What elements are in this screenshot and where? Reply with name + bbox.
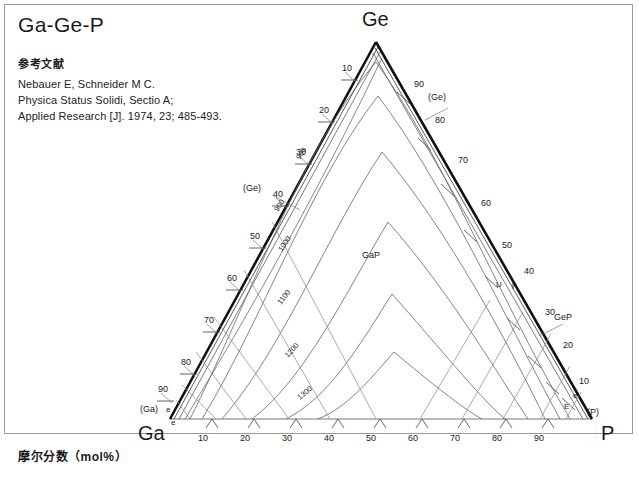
left-label-90: 90	[158, 384, 168, 394]
phase-label-gap: GaP	[362, 250, 380, 260]
left-label-80: 80	[181, 357, 191, 367]
bottom-label-60: 60	[408, 433, 418, 443]
bottom-ticks	[206, 419, 554, 428]
bottom-tick-labels: 10 20 30 40 50 60 70 80 90	[198, 433, 544, 443]
left-leader-80	[184, 366, 195, 376]
bottom-label-30: 30	[282, 433, 292, 443]
tie-line-9	[503, 334, 551, 419]
isotherm-label-1100: 1100	[275, 288, 292, 306]
right-tick-60	[464, 230, 477, 242]
gep-boundary-right-2	[373, 53, 583, 419]
isotherm-label-1200: 1200	[283, 341, 301, 359]
bottom-tick-40	[332, 419, 344, 428]
point-label-e3: e	[573, 391, 578, 400]
point-label-e2: e	[171, 418, 176, 427]
bottom-label-20: 20	[240, 433, 250, 443]
left-leader-70	[207, 324, 218, 334]
bottom-label-40: 40	[324, 433, 334, 443]
tie-line-2	[182, 385, 216, 419]
isotherm-1300	[318, 352, 482, 419]
left-label-70: 70	[204, 315, 214, 325]
right-label-20: 20	[563, 340, 573, 350]
phase-label-ga-paren: (Ga)	[140, 404, 158, 414]
left-label-10: 10	[342, 63, 352, 73]
axis-right	[376, 42, 592, 419]
phase-labels: (Ge) (Ge) GaP GeP (Ga) (P)	[140, 92, 599, 417]
ternary-diagram: 10 20 30 40 50 60 70 80 90	[0, 0, 639, 478]
bottom-tick-60	[416, 419, 428, 428]
isotherm-900	[190, 62, 570, 419]
right-label-10: 10	[579, 376, 589, 386]
bottom-tick-80	[500, 419, 512, 428]
gep-boundary-right-1	[375, 48, 588, 419]
right-tick-20	[546, 382, 559, 394]
left-leader-20	[322, 114, 333, 124]
gep-boundary-right-group	[373, 48, 588, 419]
right-label-40: 40	[524, 266, 534, 276]
bottom-label-10: 10	[198, 433, 208, 443]
left-leader-60	[230, 282, 241, 292]
bottom-tick-20	[248, 419, 260, 428]
bottom-label-90: 90	[534, 433, 544, 443]
phase-label-p-paren: (P)	[587, 407, 599, 417]
left-leader-90	[161, 393, 172, 403]
phase-label-ge-right: (Ge)	[428, 92, 446, 102]
right-label-90: 90	[414, 79, 424, 89]
point-label-u: U	[496, 280, 502, 289]
bottom-tick-30	[290, 419, 302, 428]
axis-left	[170, 42, 376, 419]
bottom-label-80: 80	[492, 433, 502, 443]
isotherm-1000	[202, 96, 560, 419]
left-label-20: 20	[319, 105, 329, 115]
left-label-50: 50	[250, 231, 260, 241]
right-label-80: 80	[435, 115, 445, 125]
point-label-p: p	[512, 280, 517, 289]
right-label-50: 50	[502, 240, 512, 250]
point-label-e1: e	[166, 405, 171, 414]
right-tick-labels: 90 80 70 60 50 40 30 20 10	[414, 79, 589, 386]
bottom-label-50: 50	[366, 433, 376, 443]
tie-line-3	[196, 352, 246, 419]
right-ticks	[397, 92, 575, 410]
left-leader-50	[253, 240, 264, 250]
left-leader-10	[345, 72, 356, 82]
bottom-label-70: 70	[450, 433, 460, 443]
bottom-tick-90	[542, 419, 554, 428]
right-label-70: 70	[458, 155, 468, 165]
tie-line-4	[214, 317, 289, 419]
tie-line-8	[462, 312, 523, 419]
point-label-e-upper: E	[564, 402, 569, 411]
bottom-tick-50	[374, 419, 386, 428]
isotherm-contours	[190, 62, 570, 419]
diagram-page: Ga-Ge-P 参考文献 Nebauer E, Schneider M C. P…	[0, 0, 639, 478]
right-label-60: 60	[481, 198, 491, 208]
bottom-tick-70	[458, 419, 470, 428]
bottom-tick-10	[206, 419, 218, 428]
phase-label-gep: GeP	[554, 312, 572, 322]
left-label-60: 60	[227, 273, 237, 283]
phase-label-ge-left: (Ge)	[243, 183, 261, 193]
right-tick-70	[441, 184, 454, 196]
left-tick-labels: 10 20 30 40 50 60 70 80 90	[158, 63, 352, 394]
